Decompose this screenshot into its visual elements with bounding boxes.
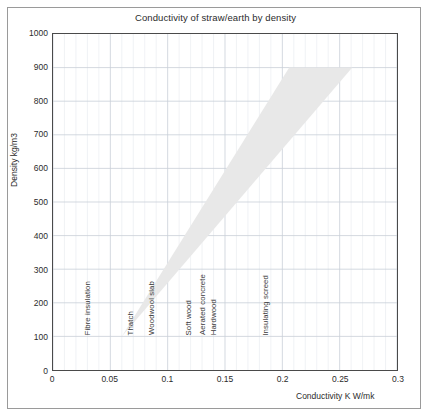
chart-screenshot: Conductivity of straw/earth by density 0… xyxy=(0,0,431,418)
y-tick-label: 200 xyxy=(2,298,48,308)
x-axis-tick-labels: 00.050.10.150.20.250.3 xyxy=(52,374,398,388)
x-tick-label: 0.25 xyxy=(332,374,349,384)
y-tick-label: 300 xyxy=(2,265,48,275)
x-axis-label: Conductivity K W/mk xyxy=(296,391,374,401)
plot-area xyxy=(52,33,398,371)
y-tick-label: 100 xyxy=(2,332,48,342)
x-tick-label: 0.2 xyxy=(277,374,289,384)
x-tick-label: 0.05 xyxy=(101,374,118,384)
y-tick-label: 0 xyxy=(2,366,48,376)
y-axis-label: Density kg/m3 xyxy=(9,110,19,210)
plot-grid-and-data xyxy=(53,34,397,370)
y-tick-label: 900 xyxy=(2,62,48,72)
y-axis-tick-labels: 01002003004005006007008009001000 xyxy=(0,33,48,371)
y-tick-label: 400 xyxy=(2,231,48,241)
x-tick-label: 0 xyxy=(50,374,55,384)
x-tick-label: 0.15 xyxy=(217,374,234,384)
y-tick-label: 1000 xyxy=(2,28,48,38)
y-tick-label: 800 xyxy=(2,96,48,106)
x-tick-label: 0.1 xyxy=(161,374,173,384)
chart-title: Conductivity of straw/earth by density xyxy=(0,12,431,23)
x-tick-label: 0.3 xyxy=(392,374,404,384)
